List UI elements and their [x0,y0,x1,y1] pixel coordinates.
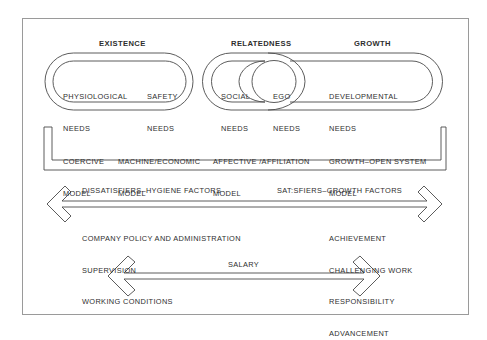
ego-needs-label: EGO NEEDS [273,71,300,145]
developmental-needs-label: DEVELOPMENTAL NEEDS [329,71,398,145]
model-machine-economic: MACHINE/ECONOMIC MODEL [118,136,200,210]
list-item: COMPANY POLICY AND ADMINISTRATION [82,234,241,245]
list-item: ADVANCEMENT [329,329,413,340]
relatedness-header: RELATEDNESS [231,39,291,50]
salary-label: SALARY [228,260,259,271]
satisfiers-list: ACHIEVEMENT CHALLENGING WORK RESPONSIBIL… [329,213,413,340]
list-item: SUPERVISION [82,266,241,277]
list-item: CHALLENGING WORK [329,266,413,277]
growth-header: GROWTH [354,39,391,50]
dissatisfiers-title: DISSATISFIERS–HYGIENE FACTORS [82,186,221,197]
list-item: ACHIEVEMENT [329,234,413,245]
dissatisfiers-list: COMPANY POLICY AND ADMINISTRATION SUPERV… [82,213,241,318]
existence-header: EXISTENCE [99,39,146,50]
satisfiers-title: SAT:SFIERS–GROWTH FACTORS [277,186,402,197]
list-item: RESPONSIBILITY [329,297,413,308]
social-needs-label: SOCIAL NEEDS [221,71,250,145]
physiological-needs-label: PHYSIOLOGICAL NEEDS [63,71,128,145]
model-growth-open-system: GROWTH–OPEN SYSTEM MODEL [329,136,426,210]
model-affective-affiliation: AFFECTIVE /AFFILIATION MODEL [213,136,310,210]
model-coercive: COERCIVE MODEL [63,136,104,210]
safety-needs-label: SAFETY NEEDS [147,71,178,145]
list-item: WORKING CONDITIONS [82,297,241,308]
